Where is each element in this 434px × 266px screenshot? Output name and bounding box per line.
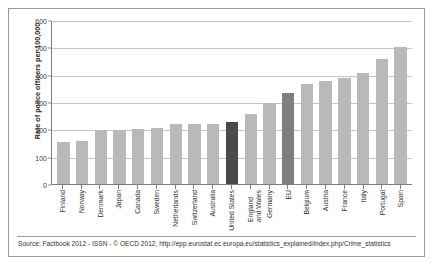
y-tick-label: 100	[25, 154, 47, 161]
x-tick-slot	[391, 185, 410, 189]
x-tick-mark	[306, 185, 307, 189]
plot-area	[51, 21, 412, 185]
x-tick-mark	[400, 185, 401, 189]
bar-slot	[54, 21, 73, 184]
x-tick-mark	[344, 185, 345, 189]
bar-slot	[279, 21, 298, 184]
y-tick-label: 400	[25, 72, 47, 79]
bar-chart: Rate of police officers per 100,000 6005…	[9, 9, 424, 230]
x-tick-slot	[297, 185, 316, 189]
x-tick-slot	[147, 185, 166, 189]
y-tick-mark	[48, 21, 51, 22]
bar	[338, 78, 350, 184]
x-tick-label: EU	[285, 190, 293, 199]
bar	[113, 130, 125, 184]
bar-slot	[316, 21, 335, 184]
x-tick-slot	[53, 185, 72, 189]
x-tick-label: Canada	[134, 190, 142, 214]
bar-slot	[166, 21, 185, 184]
y-axis-tick-labels: 6005004003002001000	[25, 21, 47, 185]
x-tick-label: France	[341, 190, 349, 211]
x-tick-mark	[212, 185, 213, 189]
bar	[245, 114, 257, 184]
source-caption: Source: Factbook 2012 - ISSN - © OECD 20…	[18, 240, 418, 247]
x-tick-mark	[250, 185, 251, 189]
x-tick-label: Norway	[78, 190, 86, 213]
x-tick-label: Spain	[397, 190, 405, 207]
y-tick-label: 600	[25, 18, 47, 25]
x-tick-label: Denmark	[97, 190, 105, 218]
x-tick-mark	[269, 185, 270, 189]
x-tick-slot	[354, 185, 373, 189]
x-tick-slot	[185, 185, 204, 189]
chart-page: Rate of police officers per 100,000 6005…	[0, 0, 434, 266]
bar	[282, 93, 294, 184]
x-tick-mark	[381, 185, 382, 189]
x-tick-mark	[231, 185, 232, 189]
y-tick-mark	[48, 75, 51, 76]
y-tick-mark	[48, 157, 51, 158]
y-tick-mark	[48, 48, 51, 49]
x-tick-slot	[109, 185, 128, 189]
bar	[76, 141, 88, 184]
bar-slot	[354, 21, 373, 184]
x-tick-label: Switzerland	[191, 190, 199, 225]
bar-slot	[110, 21, 129, 184]
y-tick-label: 500	[25, 45, 47, 52]
bar	[301, 84, 313, 184]
bar-slot	[73, 21, 92, 184]
bar	[319, 81, 331, 184]
bar	[151, 128, 163, 184]
x-tick-label: Italy	[360, 190, 368, 202]
bar	[376, 59, 388, 184]
bar-slot	[241, 21, 260, 184]
bar	[132, 129, 144, 184]
x-tick-label: Germany	[266, 190, 274, 218]
bar-slot	[298, 21, 317, 184]
x-tick-mark	[325, 185, 326, 189]
x-tick-label: Sweden	[153, 190, 161, 215]
x-tick-slot	[335, 185, 354, 189]
source-separator	[17, 236, 416, 237]
bar-slot	[91, 21, 110, 184]
x-tick-mark	[118, 185, 119, 189]
y-tick-label: 200	[25, 127, 47, 134]
y-tick-label: 0	[25, 182, 47, 189]
bar-slot	[223, 21, 242, 184]
x-tick-slot	[373, 185, 392, 189]
x-tick-slot	[91, 185, 110, 189]
x-tick-mark	[156, 185, 157, 189]
x-tick-label: Netherlands	[172, 190, 180, 227]
x-tick-label: Japan	[115, 190, 123, 209]
bar	[226, 122, 238, 184]
y-tick-mark	[48, 185, 51, 186]
bar-slot	[335, 21, 354, 184]
bar	[188, 124, 200, 184]
bar	[357, 73, 369, 184]
x-tick-label: Finland	[59, 190, 67, 212]
x-tick-slot	[222, 185, 241, 189]
bar-slot	[204, 21, 223, 184]
bar	[57, 142, 69, 184]
x-tick-mark	[363, 185, 364, 189]
x-tick-label: Australia	[209, 190, 217, 216]
bar	[263, 103, 275, 184]
x-tick-mark	[287, 185, 288, 189]
bar	[95, 130, 107, 184]
x-tick-slot	[203, 185, 222, 189]
bar	[170, 124, 182, 184]
bar-slot	[260, 21, 279, 184]
x-tick-slot	[128, 185, 147, 189]
bar-slot	[185, 21, 204, 184]
x-tick-label: Portugal	[379, 190, 387, 215]
x-tick-slot	[316, 185, 335, 189]
y-tick-mark	[48, 130, 51, 131]
bar	[394, 47, 406, 184]
x-tick-mark	[193, 185, 194, 189]
y-tick-mark	[48, 103, 51, 104]
x-tick-label: Belgium	[303, 190, 311, 215]
bar-series	[52, 21, 412, 184]
bar-slot	[129, 21, 148, 184]
x-tick-slot	[260, 185, 279, 189]
bar-slot	[148, 21, 167, 184]
